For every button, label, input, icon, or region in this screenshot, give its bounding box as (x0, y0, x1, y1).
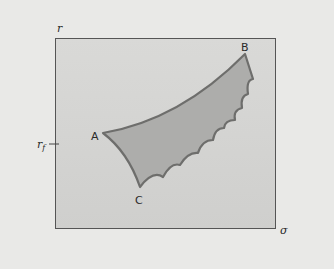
rf-label: rf (37, 138, 47, 152)
point-label-c: C (135, 194, 143, 207)
feasible-set-diagram: r σ rf A B C (0, 0, 334, 269)
point-label-a: A (91, 130, 99, 143)
y-axis-label: r (57, 22, 63, 35)
rf-label-sub: f (41, 143, 47, 152)
point-label-b: B (241, 41, 249, 54)
x-axis-label: σ (280, 224, 288, 237)
